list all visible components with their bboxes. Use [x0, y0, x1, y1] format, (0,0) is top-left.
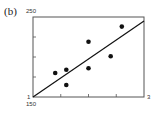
data-point	[86, 66, 91, 71]
data-point	[64, 68, 69, 73]
data-point	[64, 83, 69, 88]
regression-line	[33, 21, 144, 97]
data-point	[86, 40, 91, 45]
data-point	[53, 71, 58, 76]
data-point	[108, 54, 113, 59]
scatter-plot	[0, 0, 154, 113]
data-point	[120, 24, 125, 29]
